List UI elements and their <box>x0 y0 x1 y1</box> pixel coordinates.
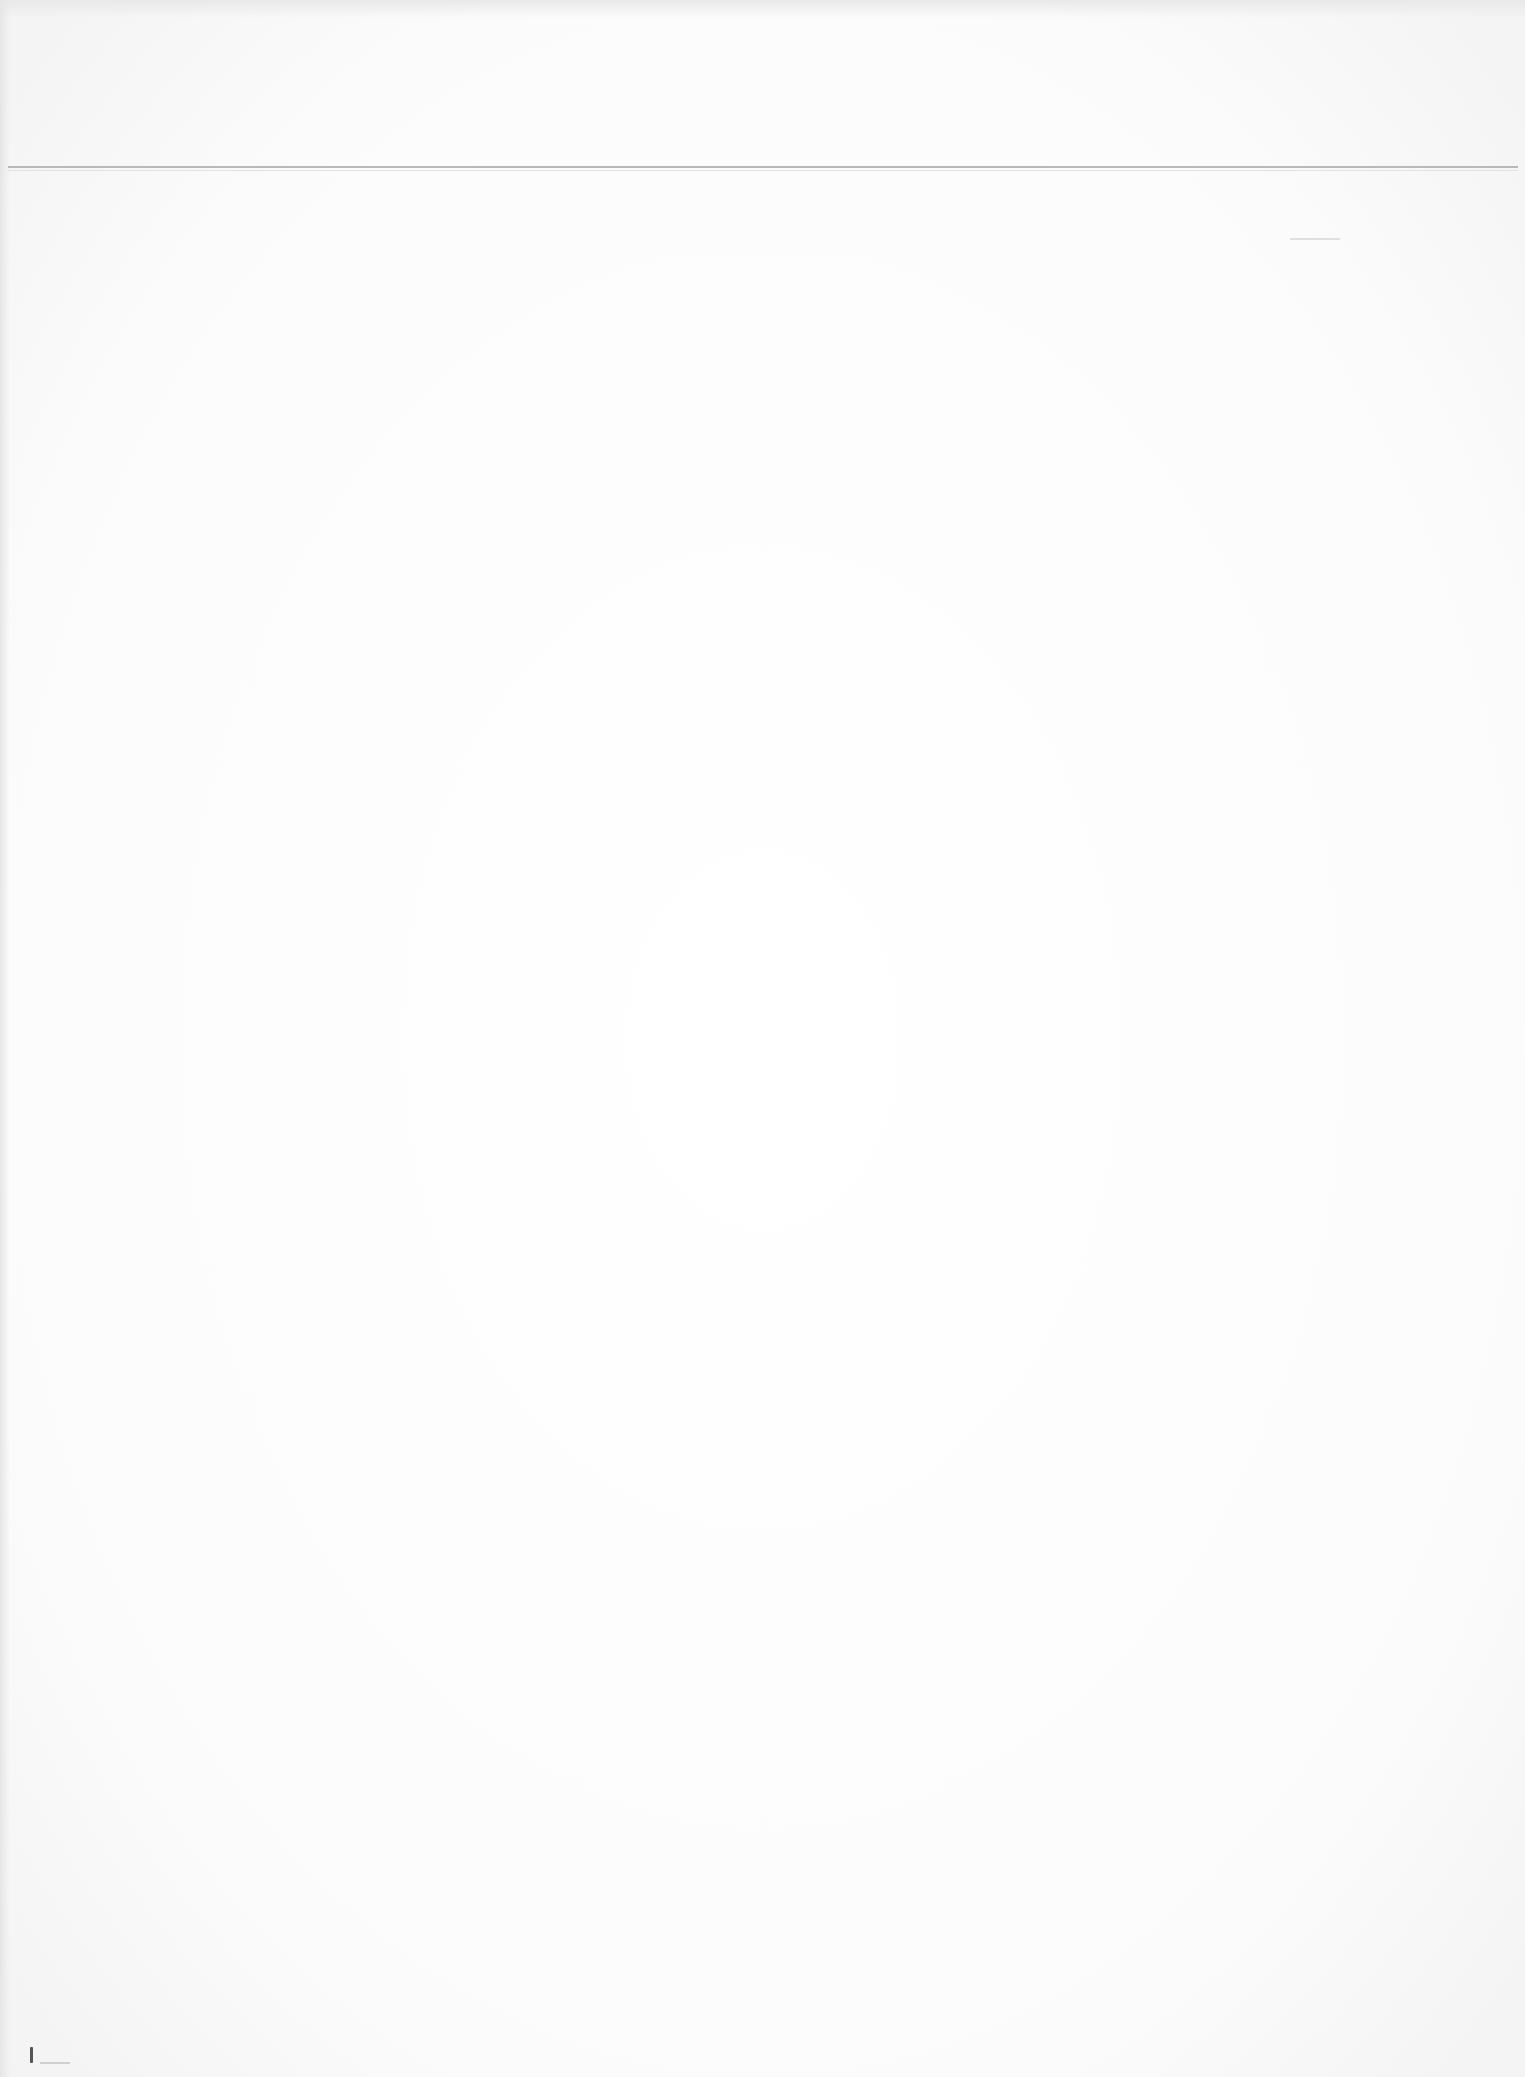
scan-artifact-speck <box>30 2047 33 2063</box>
header-rule <box>8 166 1518 168</box>
header-rule-shadow <box>8 170 1518 171</box>
scan-artifact-tail <box>40 2062 70 2064</box>
faint-dash-mark <box>1290 238 1340 240</box>
page-left-shadow <box>0 0 10 2077</box>
scanned-page <box>0 0 1525 2077</box>
page-top-shadow <box>0 0 1525 18</box>
